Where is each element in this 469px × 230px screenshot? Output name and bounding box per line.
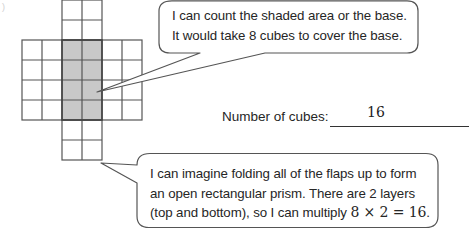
answer-label: Number of cubes: bbox=[222, 109, 329, 124]
bubble-top-text: I can count the shaded area or the base.… bbox=[172, 6, 407, 45]
bubble-bottom-text: I can imagine folding all of the flaps u… bbox=[150, 164, 430, 223]
bubble-top-line-1: I can count the shaded area or the base. bbox=[172, 6, 407, 26]
line3-prefix: (top and bottom), so I can multiply bbox=[150, 205, 350, 220]
answer-value: 16 bbox=[367, 104, 385, 120]
net-grid bbox=[22, 0, 142, 160]
multiplication-equation: 8 × 2 = 16 bbox=[350, 204, 426, 220]
bubble-bottom-line-3: (top and bottom), so I can multiply 8 × … bbox=[150, 203, 430, 223]
bubble-bottom-line-2: an open rectangular prism. There are 2 l… bbox=[150, 184, 430, 204]
bubble-bottom-line-1: I can imagine folding all of the flaps u… bbox=[150, 164, 430, 184]
answer-underline bbox=[330, 126, 469, 127]
line3-suffix: . bbox=[426, 205, 430, 220]
bubble-top-line-2: It would take 8 cubes to cover the base. bbox=[172, 26, 407, 46]
